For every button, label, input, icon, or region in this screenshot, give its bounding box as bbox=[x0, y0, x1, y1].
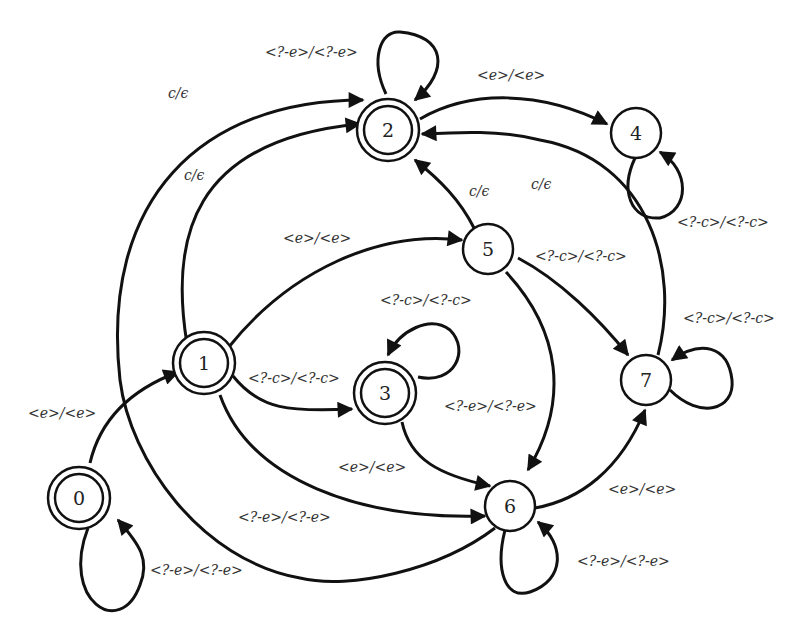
label-edge-5-6: <?-e>/<?-e> bbox=[444, 398, 537, 414]
state-2-label: 2 bbox=[382, 119, 394, 141]
label-edge-0-1: <e>/<e> bbox=[28, 405, 96, 421]
edge-2-4 bbox=[420, 98, 607, 124]
edge-0-1 bbox=[90, 372, 178, 463]
label-edge-1-6: <?-e>/<?-e> bbox=[238, 509, 331, 525]
edge-7-2 bbox=[422, 132, 665, 355]
label-edge-1-5: <e>/<e> bbox=[283, 230, 351, 246]
state-7-label: 7 bbox=[640, 369, 652, 391]
edge-5-7 bbox=[518, 258, 628, 355]
label-edge-6-7: <e>/<e> bbox=[608, 481, 676, 497]
edge-7-7 bbox=[670, 348, 732, 408]
edge-5-2 bbox=[415, 160, 474, 228]
state-7: 7 bbox=[621, 355, 671, 405]
state-3: 3 bbox=[354, 362, 416, 424]
label-edge-3-3: <?-c>/<?-c> bbox=[380, 292, 472, 308]
state-4-label: 4 bbox=[630, 122, 642, 144]
label-edge-1-2: c/ϵ bbox=[184, 167, 205, 183]
state-6-label: 6 bbox=[504, 495, 516, 517]
state-6: 6 bbox=[485, 481, 535, 531]
label-edge-3-6: <e>/<e> bbox=[338, 459, 406, 475]
label-edge-4-4: <?-c>/<?-c> bbox=[677, 214, 769, 230]
label-edge-5-2: c/ϵ bbox=[469, 183, 490, 199]
edge-5-6 bbox=[506, 272, 554, 470]
state-1: 1 bbox=[173, 332, 235, 394]
label-edge-6-6: <?-e>/<?-e> bbox=[577, 553, 670, 569]
edge-3-6 bbox=[402, 422, 490, 486]
label-edge-0-0: <?-e>/<?-e> bbox=[150, 562, 243, 578]
state-1-label: 1 bbox=[198, 352, 210, 374]
edge-4-4 bbox=[628, 152, 682, 218]
state-0: 0 bbox=[48, 467, 110, 529]
label-edge-7-7: <?-c>/<?-c> bbox=[683, 310, 775, 326]
state-2: 2 bbox=[357, 99, 419, 161]
state-3-label: 3 bbox=[379, 382, 391, 404]
edge-6-6 bbox=[501, 522, 557, 593]
state-5: 5 bbox=[463, 224, 513, 274]
edge-0-0 bbox=[81, 520, 144, 611]
label-edge-2-2: <?-e>/<?-e> bbox=[265, 44, 358, 60]
label-edge-2-4: <e>/<e> bbox=[477, 67, 545, 83]
state-0-label: 0 bbox=[73, 487, 85, 509]
edge-2-2 bbox=[378, 32, 438, 100]
state-4: 4 bbox=[611, 108, 661, 158]
label-edge-7-2: c/ϵ bbox=[531, 176, 552, 192]
label-edge-5-7: <?-c>/<?-c> bbox=[535, 248, 627, 264]
state-5-label: 5 bbox=[482, 238, 494, 260]
label-edge-6-2: c/ϵ bbox=[168, 85, 189, 101]
label-edge-1-3: <?-c>/<?-c> bbox=[248, 370, 340, 386]
state-diagram: 0 1 2 3 4 5 6 7 <?-e>/<?-e> <e>/<e> c/ϵ … bbox=[0, 0, 806, 625]
